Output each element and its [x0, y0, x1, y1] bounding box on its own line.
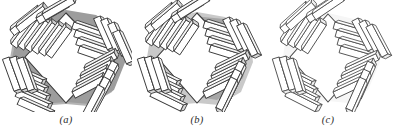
- panel-b-artwork: [131, 0, 263, 112]
- panel-a-artwork: [0, 0, 132, 112]
- figure-container: (a): [0, 0, 395, 136]
- panel-b-caption: (b): [131, 113, 263, 127]
- panel-a-caption: (a): [0, 113, 132, 127]
- figure-panel-c: (c): [262, 0, 394, 136]
- figure-panel-b: (b): [131, 0, 263, 136]
- panel-c-artwork: [262, 0, 394, 112]
- figure-panel-a: (a): [0, 0, 132, 136]
- panel-c-caption: (c): [262, 113, 394, 127]
